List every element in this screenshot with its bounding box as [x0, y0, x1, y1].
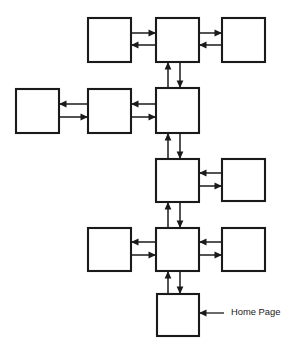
node-box-r4-center[interactable]	[156, 228, 199, 271]
link-r4-left-center-top-arrow-icon	[131, 239, 139, 246]
link-r3-r4-vertical	[165, 202, 184, 228]
link-r2-left-center-bottom-arrow-icon	[149, 114, 157, 121]
link-r2-left-center	[131, 101, 156, 121]
link-r1-r2-vertical-left-arrow-icon	[165, 62, 172, 70]
node-r2-far-left[interactable]	[16, 89, 59, 133]
link-r2-r3-vertical-left-arrow-icon	[165, 133, 172, 141]
link-r1-r2-vertical	[165, 62, 184, 88]
node-r2-center[interactable]	[156, 88, 199, 133]
link-r1-left-center	[131, 30, 156, 49]
node-r2-left[interactable]	[88, 89, 131, 133]
link-r2-left-center-top-arrow-icon	[131, 101, 139, 108]
link-r4-center-right-top-arrow-icon	[199, 239, 207, 246]
link-r1-left-center-top-arrow-icon	[149, 30, 157, 37]
home-page-callout-label: Home Page	[231, 306, 281, 317]
node-box-r1-left[interactable]	[88, 18, 131, 62]
node-r3-right[interactable]	[222, 159, 265, 201]
node-box-r5-home[interactable]	[157, 294, 199, 336]
link-r3-r4-vertical-left-arrow-icon	[165, 202, 172, 210]
home-page-callout-arrow-icon	[199, 310, 207, 317]
site-map-diagram: Home Page	[0, 0, 290, 349]
link-r3-center-right-top-arrow-icon	[199, 170, 207, 177]
link-r4-r5-vertical	[165, 271, 184, 294]
link-r4-r5-vertical-right-arrow-icon	[177, 287, 184, 295]
link-r4-center-right	[199, 239, 222, 259]
node-r1-center[interactable]	[156, 18, 199, 62]
link-r4-r5-vertical-left-arrow-icon	[165, 271, 172, 279]
home-page-callout: Home Page	[199, 306, 281, 317]
link-r1-center-right-bottom-arrow-icon	[199, 42, 207, 49]
link-r3-center-right	[199, 170, 222, 190]
node-box-r4-left[interactable]	[88, 228, 131, 271]
nodes-layer	[16, 18, 265, 336]
link-r1-r2-vertical-right-arrow-icon	[177, 81, 184, 89]
node-box-r2-far-left[interactable]	[16, 89, 59, 133]
link-r2-r3-vertical	[165, 133, 184, 159]
link-r2-r3-vertical-right-arrow-icon	[177, 152, 184, 160]
link-r3-center-right-bottom-arrow-icon	[215, 183, 223, 190]
link-r1-center-right-top-arrow-icon	[215, 30, 223, 37]
node-r4-left[interactable]	[88, 228, 131, 271]
node-r4-center[interactable]	[156, 228, 199, 271]
link-r1-center-right	[199, 30, 222, 49]
link-r2-farleft-left-top-arrow-icon	[59, 101, 67, 108]
site-map-canvas: Home Page	[0, 0, 290, 349]
link-r4-center-right-bottom-arrow-icon	[215, 252, 223, 259]
annotations-layer: Home Page	[199, 306, 281, 317]
node-box-r4-right[interactable]	[222, 228, 265, 271]
link-r2-farleft-left-bottom-arrow-icon	[81, 114, 89, 121]
node-box-r3-center[interactable]	[156, 159, 199, 202]
node-box-r2-left[interactable]	[88, 89, 131, 133]
node-box-r2-center[interactable]	[156, 88, 199, 133]
node-r1-left[interactable]	[88, 18, 131, 62]
node-box-r1-center[interactable]	[156, 18, 199, 62]
link-r4-left-center	[131, 239, 156, 259]
node-r5-home[interactable]	[157, 294, 199, 336]
link-r2-farleft-left	[59, 101, 88, 121]
node-r3-center[interactable]	[156, 159, 199, 202]
node-box-r3-right[interactable]	[222, 159, 265, 201]
link-r1-left-center-bottom-arrow-icon	[131, 42, 139, 49]
node-box-r1-right[interactable]	[222, 18, 265, 62]
link-r4-left-center-bottom-arrow-icon	[149, 252, 157, 259]
node-r1-right[interactable]	[222, 18, 265, 62]
node-r4-right[interactable]	[222, 228, 265, 271]
link-r3-r4-vertical-right-arrow-icon	[177, 221, 184, 229]
